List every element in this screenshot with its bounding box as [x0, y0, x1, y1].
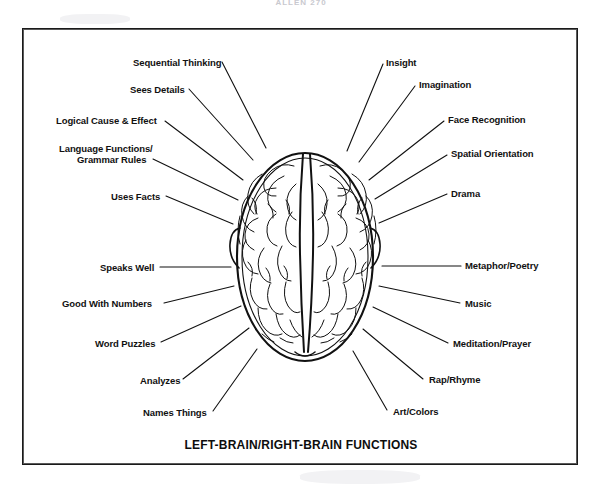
label-names-things: Names Things — [143, 407, 207, 418]
brain-longitudinal-fissure — [300, 154, 304, 352]
leader-line-uses-facts — [166, 196, 233, 224]
label-grammar-rules: Grammar Rules — [77, 154, 146, 165]
leader-line-face-recognition — [369, 121, 444, 180]
leader-lines-right — [347, 64, 461, 410]
leader-line-logical-cause-effect — [165, 121, 243, 180]
label-good-with-numbers: Good With Numbers — [62, 298, 152, 309]
label-language-functions: Language Functions/ — [59, 143, 153, 154]
label-drama: Drama — [451, 188, 480, 199]
brain-outline-inner — [242, 158, 368, 356]
leader-line-rap-rhyme — [363, 329, 423, 379]
label-art-colors: Art/Colors — [393, 406, 438, 417]
leader-line-language-functions — [153, 159, 238, 200]
label-uses-facts: Uses Facts — [111, 191, 160, 202]
leader-line-sequential-thinking — [222, 62, 266, 148]
screenshot-page: ALLEN 270 — [0, 0, 602, 490]
leader-line-drama — [379, 194, 447, 223]
brain-outline — [237, 153, 373, 361]
label-meditation-prayer: Meditation/Prayer — [453, 338, 531, 349]
label-spatial-orientation: Spatial Orientation — [451, 148, 534, 159]
brain-gyri-left-hemisphere — [238, 165, 302, 343]
label-metaphor-poetry: Metaphor/Poetry — [465, 260, 538, 271]
label-word-puzzles: Word Puzzles — [95, 338, 155, 349]
leader-lines-left — [153, 62, 266, 411]
leader-line-insight — [347, 64, 383, 151]
leader-line-meditation-prayer — [373, 307, 448, 343]
leader-line-names-things — [213, 349, 257, 411]
label-sees-details: Sees Details — [130, 84, 185, 95]
label-music: Music — [465, 298, 491, 309]
label-analyzes: Analyzes — [140, 375, 180, 386]
label-imagination: Imagination — [419, 79, 471, 90]
leader-line-word-puzzles — [161, 306, 241, 342]
diagram-canvas — [0, 0, 602, 490]
leader-line-music — [379, 286, 460, 303]
leader-line-analyzes — [183, 328, 249, 379]
brain-illustration — [230, 153, 380, 361]
leader-line-art-colors — [353, 351, 387, 410]
label-insight: Insight — [386, 57, 416, 68]
label-logical-cause-effect: Logical Cause & Effect — [56, 115, 157, 126]
leader-line-spatial-orientation — [375, 155, 447, 199]
leader-line-good-with-numbers — [164, 286, 234, 303]
label-face-recognition: Face Recognition — [448, 114, 526, 125]
leader-line-sees-details — [189, 89, 253, 160]
brain-longitudinal-fissure-2 — [308, 154, 313, 352]
label-sequential-thinking: Sequential Thinking — [133, 57, 221, 68]
label-speaks-well: Speaks Well — [100, 262, 154, 273]
label-rap-rhyme: Rap/Rhyme — [429, 374, 480, 385]
diagram-title: LEFT-BRAIN/RIGHT-BRAIN FUNCTIONS — [0, 438, 602, 452]
brain-gyri-right-hemisphere — [312, 165, 376, 343]
